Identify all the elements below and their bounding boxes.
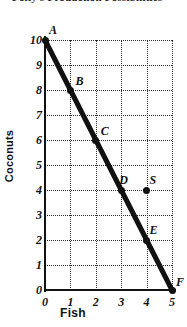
y-tick-label-1: 1 — [20, 259, 42, 271]
data-point-e — [143, 237, 150, 244]
data-point-f — [169, 287, 176, 294]
point-label-d: D — [119, 174, 128, 186]
y-tick-label-0: 0 — [20, 284, 42, 296]
chart-figure: Polly's Production Possibilities 0123456… — [0, 0, 187, 327]
point-label-a: A — [49, 24, 57, 36]
x-tick-label-0: 0 — [38, 296, 52, 308]
x-tick-label-3: 3 — [114, 296, 128, 308]
point-label-s: S — [150, 174, 157, 186]
y-tick-label-7: 7 — [20, 109, 42, 121]
data-point-c — [92, 137, 99, 144]
x-axis-title: Fish — [60, 306, 86, 320]
point-label-b: B — [75, 75, 83, 87]
y-tick-label-10: 10 — [18, 34, 42, 46]
x-tick-label-5: 5 — [165, 296, 179, 308]
y-tick-label-5: 5 — [20, 159, 42, 171]
y-axis-title: Coconuts — [3, 121, 15, 191]
y-tick-label-4: 4 — [20, 184, 42, 196]
y-tick-label-3: 3 — [20, 209, 42, 221]
data-point-s — [143, 187, 150, 194]
point-label-c: C — [101, 125, 109, 137]
data-point-d — [118, 187, 125, 194]
ppf-line — [45, 40, 172, 290]
x-tick-label-4: 4 — [140, 296, 154, 308]
y-tick-label-6: 6 — [20, 134, 42, 146]
data-point-b — [67, 87, 74, 94]
x-tick-label-2: 2 — [89, 296, 103, 308]
y-tick-label-2: 2 — [20, 234, 42, 246]
y-tick-label-8: 8 — [20, 84, 42, 96]
point-label-f: F — [176, 276, 184, 288]
point-label-e: E — [150, 224, 158, 236]
y-tick-label-9: 9 — [20, 59, 42, 71]
data-point-a — [42, 37, 49, 44]
